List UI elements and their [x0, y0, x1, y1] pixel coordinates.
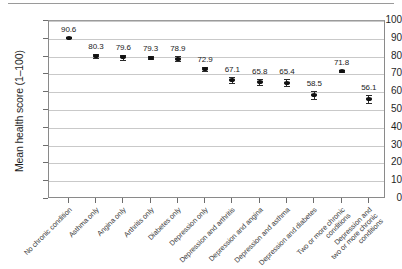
x-tick-mark: [313, 198, 314, 203]
data-value-label: 78.9: [162, 45, 194, 53]
error-cap-lower: [366, 103, 372, 104]
gridline: [49, 92, 384, 93]
data-value-label: 72.9: [189, 56, 221, 64]
gridline: [49, 74, 384, 75]
error-cap-upper: [311, 91, 317, 92]
scan-artifact-rule: [8, 3, 394, 4]
x-tick-mark: [122, 198, 123, 203]
x-tick-mark: [150, 198, 151, 203]
x-tick-mark: [204, 198, 205, 203]
point-marker: [66, 36, 72, 40]
x-tick-mark: [95, 198, 96, 203]
gridline: [49, 21, 384, 22]
x-tick-mark: [259, 198, 260, 203]
error-cap-lower: [202, 71, 208, 72]
x-tick-mark: [231, 198, 232, 203]
chart-figure: Mean health score (1–100) 01020304050607…: [0, 0, 402, 269]
point-marker: [366, 97, 372, 101]
y-tick-mark: [43, 198, 48, 199]
point-marker: [229, 78, 235, 82]
error-cap-lower: [311, 99, 317, 100]
error-cap-lower: [284, 86, 290, 87]
y-axis-title: Mean health score (1–100): [13, 50, 25, 172]
point-marker: [311, 93, 317, 97]
data-value-label: 65.4: [271, 68, 303, 76]
point-marker: [93, 54, 99, 58]
error-cap-upper: [366, 95, 372, 96]
point-marker: [339, 69, 345, 73]
point-marker: [148, 56, 154, 60]
gridline: [49, 181, 384, 182]
error-cap-lower: [175, 61, 181, 62]
data-value-label: 58.5: [298, 80, 330, 88]
error-cap-lower: [257, 85, 263, 86]
point-marker: [257, 80, 263, 84]
gridline: [49, 39, 384, 40]
error-cap-lower: [120, 60, 126, 61]
x-tick-mark: [177, 198, 178, 203]
data-value-label: 71.8: [326, 59, 358, 67]
point-marker: [284, 81, 290, 85]
error-cap-lower: [229, 83, 235, 84]
data-value-label: 56.1: [353, 84, 385, 92]
x-tick-mark: [368, 198, 369, 203]
x-tick-mark: [286, 198, 287, 203]
point-marker: [175, 57, 181, 61]
x-tick-mark: [341, 198, 342, 203]
data-value-label: 90.6: [53, 26, 85, 34]
x-tick-mark: [68, 198, 69, 203]
gridline: [49, 128, 384, 129]
gridline: [49, 110, 384, 111]
plot-area: 90.680.379.679.378.972.967.165.865.458.5…: [48, 20, 385, 198]
gridline: [49, 146, 384, 147]
gridline: [49, 163, 384, 164]
